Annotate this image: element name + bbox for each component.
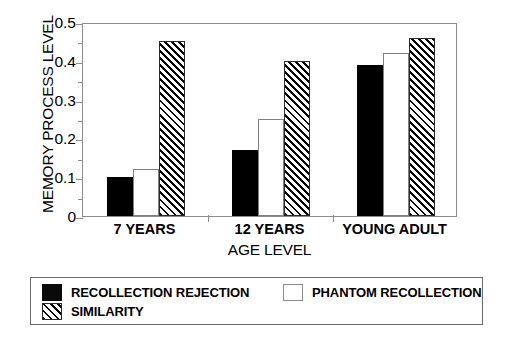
- legend-swatch-icon: [42, 303, 62, 320]
- y-tick-label: 0.4: [36, 54, 76, 70]
- bar[interactable]: [284, 61, 310, 216]
- x-category-label: 7 YEARS: [114, 221, 176, 237]
- y-tick-label: 0.2: [36, 132, 76, 148]
- legend-entry[interactable]: PHANTOM RECOLLECTION: [283, 284, 482, 301]
- y-tick-label: 0: [36, 209, 76, 225]
- legend-entry[interactable]: SIMILARITY: [42, 303, 144, 320]
- bar[interactable]: [383, 53, 409, 216]
- x-axis-title: AGE LEVEL: [82, 241, 457, 259]
- y-tick-mark-major: [76, 102, 83, 103]
- x-axis-category-labels: 7 YEARS12 YEARSYOUNG ADULT: [82, 221, 457, 243]
- bar[interactable]: [159, 41, 185, 216]
- bar[interactable]: [258, 119, 284, 216]
- legend-entry[interactable]: RECOLLECTION REJECTION: [42, 284, 249, 301]
- bar-group: [83, 24, 208, 216]
- y-tick-mark-major: [76, 63, 83, 64]
- bar-group: [208, 24, 333, 216]
- y-tick-mark-major: [76, 24, 83, 25]
- x-category-label: YOUNG ADULT: [342, 221, 447, 237]
- y-axis-tick-labels: 00.10.20.30.40.5: [36, 23, 76, 217]
- chart-legend: RECOLLECTION REJECTIONPHANTOM RECOLLECTI…: [30, 277, 483, 325]
- bar[interactable]: [107, 177, 133, 216]
- y-tick-label: 0.3: [36, 93, 76, 109]
- legend-label: SIMILARITY: [71, 304, 144, 319]
- legend-label: RECOLLECTION REJECTION: [71, 285, 249, 300]
- y-tick-mark-major: [76, 179, 83, 180]
- legend-swatch-icon: [283, 284, 303, 301]
- bar[interactable]: [409, 38, 435, 216]
- x-category-label: 12 YEARS: [235, 221, 305, 237]
- legend-label: PHANTOM RECOLLECTION: [312, 285, 482, 300]
- y-tick-mark-major: [76, 218, 83, 219]
- plot-area: [82, 23, 457, 217]
- y-tick-label: 0.5: [36, 15, 76, 31]
- legend-swatch-icon: [42, 284, 62, 301]
- bar-group: [333, 24, 458, 216]
- bar[interactable]: [133, 169, 159, 216]
- y-tick-mark-major: [76, 140, 83, 141]
- bar[interactable]: [232, 150, 258, 216]
- y-tick-label: 0.1: [36, 170, 76, 186]
- bar[interactable]: [357, 65, 383, 216]
